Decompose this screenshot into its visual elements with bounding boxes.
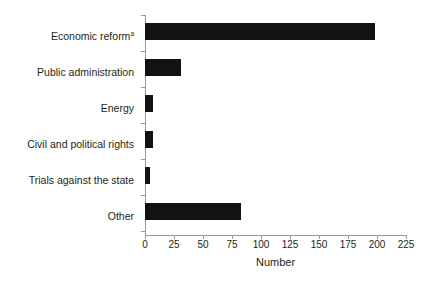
- x-tick-label: 50: [197, 239, 208, 250]
- y-axis-tick: [141, 123, 145, 124]
- x-tick-label: 175: [340, 239, 357, 250]
- category-label: Energy: [101, 101, 134, 115]
- y-axis-tick: [141, 159, 145, 160]
- category-label-text: Energy: [101, 102, 134, 114]
- category-label-text: Trials against the state: [29, 174, 134, 186]
- y-axis-tick: [141, 231, 145, 232]
- x-tick-label: 0: [142, 239, 148, 250]
- x-tick-label: 25: [168, 239, 179, 250]
- bar: [145, 23, 375, 40]
- category-label-text: Other: [108, 210, 134, 222]
- category-label-superscript: a: [130, 30, 134, 37]
- y-axis-tick: [141, 51, 145, 52]
- bar: [145, 59, 181, 76]
- category-label-text: Public administration: [37, 66, 134, 78]
- x-axis-tick-labels: 0 25 50 75 100 125 150 175 200 225: [145, 239, 421, 253]
- bar: [145, 203, 241, 220]
- x-axis-title: Number: [145, 256, 406, 268]
- x-tick-label: 75: [226, 239, 237, 250]
- y-axis-line: [145, 15, 146, 235]
- category-label: Economic reforma: [51, 29, 134, 43]
- y-axis-tick: [141, 195, 145, 196]
- category-label: Trials against the state: [29, 173, 134, 187]
- bar: [145, 131, 153, 148]
- bar: [145, 167, 150, 184]
- category-label-text: Economic reform: [51, 30, 130, 42]
- x-tick-label: 125: [282, 239, 299, 250]
- plot-area: [145, 15, 406, 235]
- x-tick-label: 100: [253, 239, 270, 250]
- y-axis-tick: [141, 15, 145, 16]
- category-label: Public administration: [37, 65, 134, 79]
- x-tick-label: 200: [369, 239, 386, 250]
- y-axis-tick: [141, 87, 145, 88]
- x-tick-label: 150: [311, 239, 328, 250]
- category-label-text: Civil and political rights: [27, 138, 134, 150]
- x-axis-line: [145, 235, 407, 236]
- category-axis-labels: Economic reforma Public administration E…: [0, 15, 140, 235]
- bar-chart: Economic reforma Public administration E…: [0, 0, 421, 281]
- bar: [145, 95, 153, 112]
- x-tick-label: 225: [398, 239, 415, 250]
- category-label: Civil and political rights: [27, 137, 134, 151]
- category-label: Other: [108, 209, 134, 223]
